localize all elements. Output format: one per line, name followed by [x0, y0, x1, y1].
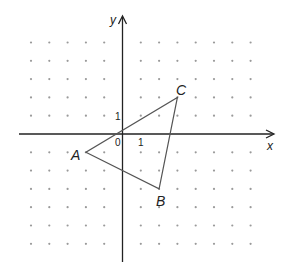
grid-dot	[48, 78, 50, 80]
grid-dot	[195, 243, 197, 245]
grid-dot	[67, 243, 69, 245]
grid-dot	[158, 115, 160, 117]
vertex-label-b: B	[156, 193, 165, 209]
grid-dot	[140, 60, 142, 62]
grid-dot	[213, 78, 215, 80]
grid-dot	[250, 243, 252, 245]
grid-dot	[231, 206, 233, 208]
grid-dot	[176, 151, 178, 153]
grid-dot	[250, 60, 252, 62]
grid-dot	[176, 41, 178, 43]
grid-dot	[250, 115, 252, 117]
grid-dot	[85, 78, 87, 80]
grid-dot	[213, 41, 215, 43]
grid-dot	[250, 206, 252, 208]
grid-dot	[195, 151, 197, 153]
grid-dot	[30, 206, 32, 208]
grid-dot	[231, 224, 233, 226]
grid-dot	[158, 60, 160, 62]
grid-dot	[176, 188, 178, 190]
grid-dot	[103, 60, 105, 62]
grid-dot	[85, 188, 87, 190]
triangle-abc	[86, 97, 177, 188]
grid-dot	[195, 170, 197, 172]
grid-dot	[67, 115, 69, 117]
grid-dot	[30, 115, 32, 117]
grid-dot	[48, 224, 50, 226]
grid-dot	[30, 243, 32, 245]
grid-dot	[67, 41, 69, 43]
grid-dot	[176, 206, 178, 208]
grid-dot	[250, 170, 252, 172]
grid-dot	[158, 151, 160, 153]
grid-dot	[30, 188, 32, 190]
grid-dot	[67, 206, 69, 208]
y-unit-label: 1	[115, 111, 121, 122]
grid-dot	[176, 60, 178, 62]
grid-dot	[250, 78, 252, 80]
grid-dot	[158, 224, 160, 226]
grid-dot	[231, 78, 233, 80]
grid-dot	[213, 170, 215, 172]
grid-dot	[231, 243, 233, 245]
grid-dot	[213, 151, 215, 153]
grid-dot	[30, 78, 32, 80]
x-unit-label: 1	[138, 137, 144, 148]
grid-dot	[103, 78, 105, 80]
grid-dot	[30, 60, 32, 62]
grid-dot	[85, 96, 87, 98]
grid-dot	[48, 206, 50, 208]
origin-label: 0	[115, 137, 121, 148]
grid-dot	[158, 41, 160, 43]
grid-dot	[30, 151, 32, 153]
grid-dot	[140, 206, 142, 208]
grid-dot	[213, 188, 215, 190]
grid-dot	[231, 96, 233, 98]
grid-dot	[67, 78, 69, 80]
grid-dot	[158, 243, 160, 245]
grid-dot	[67, 96, 69, 98]
grid-dot	[195, 206, 197, 208]
grid-dot	[250, 41, 252, 43]
grid-dot	[48, 96, 50, 98]
grid-dot	[231, 188, 233, 190]
grid-dot	[231, 60, 233, 62]
grid-dot	[176, 115, 178, 117]
coordinate-plane: x y 0 1 1 A B C	[0, 0, 290, 271]
grid-dot	[213, 60, 215, 62]
grid-dot	[103, 41, 105, 43]
grid-dot	[158, 170, 160, 172]
grid-dot	[85, 243, 87, 245]
grid-dot	[176, 243, 178, 245]
grid-dot	[103, 115, 105, 117]
grid-dot	[67, 60, 69, 62]
grid-dot	[48, 41, 50, 43]
grid-dot	[195, 41, 197, 43]
grid-dot	[195, 60, 197, 62]
grid-dot	[140, 78, 142, 80]
grid-dot	[140, 41, 142, 43]
grid-dot	[30, 41, 32, 43]
vertex-label-a: A	[70, 147, 80, 163]
grid-dot	[195, 115, 197, 117]
grid-dot	[250, 224, 252, 226]
vertex-label-c: C	[176, 82, 187, 98]
grid-dot	[140, 96, 142, 98]
grid-dot	[195, 224, 197, 226]
grid-dot	[140, 243, 142, 245]
grid-dot	[176, 78, 178, 80]
grid-dot	[85, 206, 87, 208]
grid-dot	[30, 96, 32, 98]
grid-dot	[213, 96, 215, 98]
grid-dot	[103, 224, 105, 226]
grid-dot	[67, 151, 69, 153]
grid-dot	[231, 170, 233, 172]
grid-dot	[250, 188, 252, 190]
grid-dot	[195, 78, 197, 80]
grid-dot	[231, 41, 233, 43]
grid-dot	[140, 170, 142, 172]
grid-dot	[67, 188, 69, 190]
grid-dot	[103, 151, 105, 153]
grid-dot	[67, 224, 69, 226]
grid-dot	[85, 60, 87, 62]
